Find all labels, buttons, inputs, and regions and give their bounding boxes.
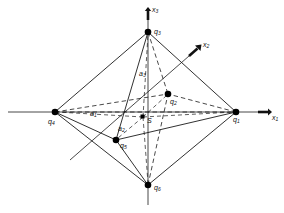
vertex-dot-q1 xyxy=(233,109,240,116)
edge-q6-q4 xyxy=(55,112,148,185)
arrowhead-x1-icon xyxy=(258,109,272,116)
vertex-dot-q2 xyxy=(165,91,172,98)
semi-axis-label-a1: a1 xyxy=(90,110,97,118)
vertex-dot-q3 xyxy=(145,29,152,36)
axis-label-x1-sub: 1 xyxy=(276,116,279,122)
axis-label-x2: x2 xyxy=(203,41,209,49)
center-rays xyxy=(57,34,234,183)
vertex-label-q2-sub: 2 xyxy=(174,100,177,106)
vertex-label-q6-sub: 6 xyxy=(158,186,161,192)
vertex-label-q4-sub: 4 xyxy=(52,120,55,126)
vertex-label-q1-sub: 1 xyxy=(237,118,240,124)
edge-q3-q5 xyxy=(116,32,148,140)
vertex-dot-q5 xyxy=(113,137,120,144)
axis-label-x3: x3 xyxy=(152,6,158,14)
octahedron-diagram: x1 x2 x3 q1 q2 q3 q4 q5 q6 S a1 a2 a3 xyxy=(0,0,284,213)
axis-label-x3-sub: 3 xyxy=(156,8,159,14)
arrowhead-x2-icon xyxy=(189,45,202,57)
semi-axis-label-a1-sub: 1 xyxy=(94,112,97,118)
ray-S-q6 xyxy=(143,117,148,183)
edge-q3-q4 xyxy=(55,32,148,112)
arrowhead-x3-icon xyxy=(145,7,151,20)
semi-axis-label-a3-sub: 3 xyxy=(143,72,146,78)
vertex-label-q6: q6 xyxy=(154,184,161,192)
ray-S-q4 xyxy=(57,112,143,117)
vertex-label-q5-sub: 5 xyxy=(124,144,127,150)
ray-S-q2 xyxy=(143,96,166,117)
semi-axis-label-a2-sub: 2 xyxy=(122,127,125,133)
vertex-label-q3: q3 xyxy=(154,28,161,36)
semi-axis-label-a2: a2 xyxy=(118,125,125,133)
vertex-label-q4: q4 xyxy=(48,118,55,126)
visible-edges xyxy=(55,32,236,185)
edge-q6-q1 xyxy=(148,112,236,185)
vertex-dots xyxy=(52,29,240,189)
vertex-dot-q6 xyxy=(145,182,152,189)
ray-S-q1 xyxy=(143,112,234,117)
vertex-label-q1: q1 xyxy=(233,116,240,124)
hidden-edges xyxy=(55,32,236,185)
vertex-label-q2: q2 xyxy=(170,98,177,106)
vertex-label-q5: q5 xyxy=(120,142,127,150)
semi-axis-label-a3: a3 xyxy=(139,70,146,78)
axis-arrowheads xyxy=(145,7,272,115)
center-label-S: S xyxy=(147,117,152,124)
axis-label-x2-sub: 2 xyxy=(207,43,210,49)
vertex-label-q3-sub: 3 xyxy=(158,30,161,36)
vertex-dot-q4 xyxy=(52,109,59,116)
axis-label-x1: x1 xyxy=(272,114,278,122)
edge-q4-q2 xyxy=(55,94,168,112)
octahedron-drawing xyxy=(0,0,284,213)
axis-line-x2 xyxy=(70,49,197,160)
center-point-S-marker xyxy=(141,115,145,119)
